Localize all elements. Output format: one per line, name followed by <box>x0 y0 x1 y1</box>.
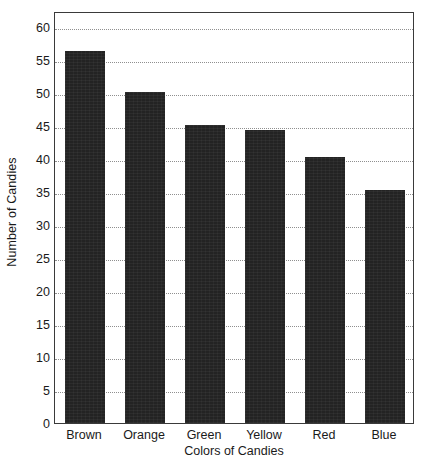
y-axis-tick-label: 40 <box>24 154 50 166</box>
y-axis-tick-label: 5 <box>24 385 50 397</box>
bar-yellow <box>245 130 285 423</box>
y-axis-title: Number of Candies <box>0 0 24 424</box>
y-axis-tick-label: 30 <box>24 220 50 232</box>
x-axis-tick-label-blue: Blue <box>354 428 414 443</box>
x-axis-title: Colors of Candies <box>54 444 414 458</box>
bar-brown <box>65 51 105 423</box>
bar-red <box>305 157 345 423</box>
y-axis-tick-label: 60 <box>24 22 50 34</box>
x-axis-tick-label-yellow: Yellow <box>234 428 294 443</box>
x-axis-tick-label-orange: Orange <box>114 428 174 443</box>
y-axis-title-text: Number of Candies <box>5 157 19 266</box>
y-axis-tick-label: 35 <box>24 187 50 199</box>
x-axis-tick-label-brown: Brown <box>54 428 114 443</box>
bar-blue <box>365 190 405 423</box>
y-axis-tick-label: 55 <box>24 55 50 67</box>
x-axis-tick-label-red: Red <box>294 428 354 443</box>
y-axis-tick-label: 10 <box>24 352 50 364</box>
x-axis-tick-label-green: Green <box>174 428 234 443</box>
y-axis-tick-label: 20 <box>24 286 50 298</box>
y-axis-tick-label: 50 <box>24 88 50 100</box>
bar-green <box>185 125 225 423</box>
bars-group <box>55 13 413 423</box>
plot-area <box>54 12 414 424</box>
bar-orange <box>125 92 165 423</box>
y-axis-tick-label: 0 <box>24 418 50 430</box>
y-axis-tick-label: 25 <box>24 253 50 265</box>
y-axis-tick-label: 15 <box>24 319 50 331</box>
y-axis-tick-labels: 051015202530354045505560 <box>24 0 50 460</box>
y-axis-tick-label: 45 <box>24 121 50 133</box>
bar-chart: Number of Candies 0510152025303540455055… <box>0 0 433 460</box>
